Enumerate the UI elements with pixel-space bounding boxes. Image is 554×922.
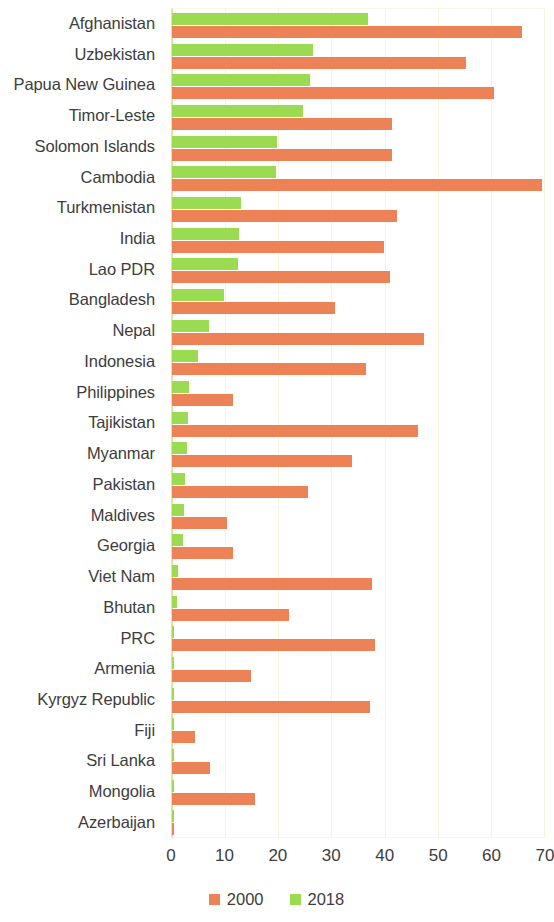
bar-2018[interactable]	[172, 350, 198, 362]
bar-2000[interactable]	[172, 394, 233, 406]
bar-2018[interactable]	[172, 626, 174, 638]
bar-row	[172, 70, 544, 101]
bar-2018[interactable]	[172, 381, 189, 393]
legend-item[interactable]: 2000	[209, 890, 264, 909]
category-label: Georgia	[0, 530, 163, 561]
bar-2018[interactable]	[172, 565, 178, 577]
category-label: Philippines	[0, 377, 163, 408]
bar-row	[172, 224, 544, 255]
bar-2000[interactable]	[172, 363, 366, 375]
bar-row	[172, 377, 544, 408]
bar-2000[interactable]	[172, 118, 392, 130]
bar-row	[172, 101, 544, 132]
bar-2018[interactable]	[172, 442, 187, 454]
bar-2018[interactable]	[172, 258, 238, 270]
category-label: Lao PDR	[0, 254, 163, 285]
category-axis-labels: AfghanistanUzbekistanPapua New GuineaTim…	[0, 8, 163, 838]
bar-row	[172, 469, 544, 500]
bar-2000[interactable]	[172, 57, 466, 69]
x-tick-label: 30	[322, 846, 341, 866]
bar-2018[interactable]	[172, 412, 188, 424]
bar-row	[172, 162, 544, 193]
bar-2000[interactable]	[172, 670, 251, 682]
category-label: Azerbaijan	[0, 807, 163, 838]
x-tick-label: 60	[482, 846, 501, 866]
bar-2000[interactable]	[172, 455, 352, 467]
bar-2000[interactable]	[172, 823, 174, 835]
bar-2018[interactable]	[172, 504, 184, 516]
category-label: PRC	[0, 623, 163, 654]
bar-2018[interactable]	[172, 473, 185, 485]
bar-2000[interactable]	[172, 578, 372, 590]
bar-2018[interactable]	[172, 749, 174, 761]
category-label: Cambodia	[0, 162, 163, 193]
bar-row	[172, 714, 544, 745]
bar-row	[172, 9, 544, 40]
bar-2018[interactable]	[172, 166, 276, 178]
bar-2000[interactable]	[172, 793, 255, 805]
bar-2000[interactable]	[172, 762, 210, 774]
bar-2018[interactable]	[172, 320, 209, 332]
bar-2000[interactable]	[172, 333, 424, 345]
legend-item[interactable]: 2018	[290, 890, 345, 909]
bar-2018[interactable]	[172, 718, 174, 730]
category-label: Papua New Guinea	[0, 69, 163, 100]
bar-2000[interactable]	[172, 547, 233, 559]
bar-2018[interactable]	[172, 13, 368, 25]
category-label: Mongolia	[0, 776, 163, 807]
bar-2000[interactable]	[172, 517, 227, 529]
bar-2018[interactable]	[172, 228, 239, 240]
bar-2000[interactable]	[172, 210, 397, 222]
bar-2018[interactable]	[172, 105, 303, 117]
bar-2018[interactable]	[172, 136, 277, 148]
category-label: Bangladesh	[0, 285, 163, 316]
bar-2018[interactable]	[172, 657, 174, 669]
bar-row	[172, 684, 544, 715]
bar-row	[172, 346, 544, 377]
bar-2018[interactable]	[172, 197, 241, 209]
bar-row	[172, 745, 544, 776]
x-tick-label: 20	[268, 846, 287, 866]
bar-2000[interactable]	[172, 26, 522, 38]
category-label: Turkmenistan	[0, 192, 163, 223]
bar-2000[interactable]	[172, 87, 494, 99]
bar-2000[interactable]	[172, 179, 542, 191]
bar-2000[interactable]	[172, 149, 392, 161]
bar-row	[172, 438, 544, 469]
bar-row	[172, 622, 544, 653]
bar-row	[172, 132, 544, 163]
bar-row	[172, 592, 544, 623]
bar-2000[interactable]	[172, 302, 335, 314]
category-label: Bhutan	[0, 592, 163, 623]
category-label: Kyrgyz Republic	[0, 684, 163, 715]
category-label: Myanmar	[0, 438, 163, 469]
bar-2000[interactable]	[172, 271, 390, 283]
bar-2018[interactable]	[172, 289, 224, 301]
bar-2018[interactable]	[172, 780, 174, 792]
x-tick-label: 10	[215, 846, 234, 866]
bar-row	[172, 316, 544, 347]
bar-2000[interactable]	[172, 701, 370, 713]
bar-2018[interactable]	[172, 810, 174, 822]
bar-2000[interactable]	[172, 241, 384, 253]
bar-2018[interactable]	[172, 688, 174, 700]
bar-2000[interactable]	[172, 425, 418, 437]
chart-legend: 20002018	[0, 890, 553, 909]
bar-2000[interactable]	[172, 609, 289, 621]
category-label: Sri Lanka	[0, 746, 163, 777]
category-label: Nepal	[0, 315, 163, 346]
bar-2018[interactable]	[172, 74, 310, 86]
bar-2000[interactable]	[172, 639, 375, 651]
bar-2000[interactable]	[172, 486, 308, 498]
category-label: Maldives	[0, 500, 163, 531]
x-tick-label: 40	[375, 846, 394, 866]
bar-row	[172, 806, 544, 837]
bar-row	[172, 193, 544, 224]
bar-2018[interactable]	[172, 596, 177, 608]
legend-label: 2018	[308, 890, 345, 909]
x-tick-label: 0	[166, 846, 175, 866]
bar-2018[interactable]	[172, 44, 313, 56]
bar-2018[interactable]	[172, 534, 183, 546]
bar-2000[interactable]	[172, 731, 195, 743]
category-label: Tajikistan	[0, 408, 163, 439]
